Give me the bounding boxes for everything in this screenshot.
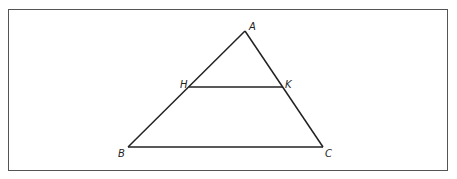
vertex-label-c: C [325,148,332,159]
point-label-k: K [285,79,293,90]
vertex-label-b: B [118,148,125,159]
segment-ac [245,31,323,147]
vertex-label-a: A [248,21,256,32]
triangle-diagram: A H K B C [0,0,457,179]
point-label-h: H [180,79,188,90]
